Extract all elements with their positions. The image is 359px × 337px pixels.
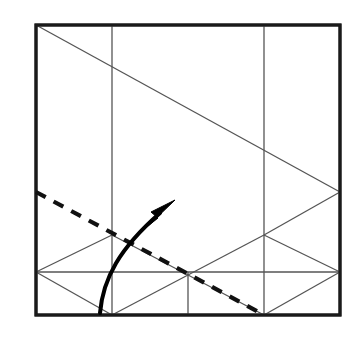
origami-diagram — [0, 0, 359, 337]
crease-pattern-svg — [0, 0, 359, 337]
